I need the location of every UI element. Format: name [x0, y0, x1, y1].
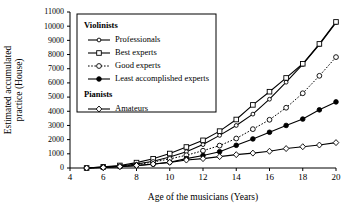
data-point [317, 108, 322, 113]
y-axis-ticks: 0100020003000400050006000700080009000100… [44, 7, 70, 172]
data-point [334, 55, 339, 60]
legend-swatch-marker [97, 51, 102, 56]
y-axis-title-line1: Estimated accumulated [3, 46, 13, 135]
x-axis-title: Age of the musicians (Years) [148, 192, 258, 203]
legend-swatch-marker [97, 38, 101, 42]
data-point [300, 61, 305, 66]
data-point [300, 91, 305, 96]
data-point [201, 138, 206, 143]
data-point [184, 145, 189, 150]
data-point [317, 73, 322, 78]
data-point [283, 146, 289, 152]
data-point [251, 112, 255, 116]
y-tick-label: 8000 [48, 50, 64, 59]
data-point [250, 150, 256, 156]
data-point [233, 152, 239, 158]
y-tick-label: 5000 [48, 92, 64, 101]
chart-container: 0100020003000400050006000700080009000100… [0, 0, 349, 206]
data-point [267, 117, 272, 122]
data-point [201, 143, 205, 147]
data-point [300, 117, 305, 122]
data-point [284, 105, 289, 110]
data-point [251, 137, 256, 142]
legend-heading: Violinists [84, 20, 118, 30]
data-point [284, 76, 289, 81]
y-tick-label: 11000 [44, 7, 64, 16]
y-axis-title-line2: practice (House) [14, 58, 25, 121]
data-point [234, 124, 238, 128]
x-tick-label: 14 [232, 172, 242, 182]
x-tick-label: 4 [68, 172, 73, 182]
y-tick-label: 1000 [48, 149, 64, 158]
data-point [334, 100, 339, 105]
series-amateurs [84, 140, 339, 171]
data-point [284, 123, 289, 128]
data-point [201, 148, 206, 153]
data-point [317, 42, 322, 47]
x-tick-label: 20 [332, 172, 342, 182]
legend-swatch-marker [97, 77, 102, 82]
x-tick-label: 16 [265, 172, 275, 182]
legend-entry-label: Least accomplished experts [115, 73, 209, 83]
y-tick-label: 2000 [48, 135, 64, 144]
y-tick-label: 9000 [48, 36, 64, 45]
legend: ViolinistsProfessionalsBest expertsGood … [77, 14, 216, 113]
y-tick-label: 6000 [48, 78, 64, 87]
data-point [268, 97, 272, 101]
data-point [333, 140, 339, 146]
y-tick-label: 3000 [48, 121, 64, 130]
x-tick-label: 18 [298, 172, 308, 182]
data-point [167, 151, 172, 156]
legend-heading: Pianists [84, 89, 113, 99]
data-point [217, 129, 222, 134]
y-tick-label: 4000 [48, 107, 64, 116]
data-point [234, 143, 239, 148]
y-tick-label: 7000 [48, 64, 64, 73]
x-axis-ticks: 468101214161820 [68, 168, 341, 182]
legend-entry-label: Best experts [115, 47, 157, 57]
data-point [217, 143, 222, 148]
data-point [300, 144, 306, 150]
data-point [284, 80, 288, 84]
data-point [234, 136, 239, 141]
x-tick-label: 6 [101, 172, 106, 182]
x-tick-label: 8 [134, 172, 139, 182]
legend-swatch-marker [97, 64, 102, 69]
x-tick-label: 10 [165, 172, 175, 182]
data-point [234, 117, 239, 122]
legend-entry-label: Good experts [115, 60, 161, 70]
data-point [267, 130, 272, 135]
data-point [334, 20, 339, 25]
line-chart: 0100020003000400050006000700080009000100… [0, 0, 349, 206]
y-tick-label: 0 [60, 163, 64, 172]
data-point [267, 148, 273, 154]
data-point [218, 133, 222, 137]
data-point [251, 103, 256, 108]
legend-entry-label: Professionals [115, 34, 160, 44]
data-point [317, 142, 323, 148]
data-point [267, 89, 272, 94]
data-point [217, 154, 223, 160]
y-tick-label: 10000 [44, 22, 64, 31]
x-tick-label: 12 [199, 172, 208, 182]
legend-entry-label: Amateurs [115, 103, 148, 113]
data-point [250, 127, 255, 132]
